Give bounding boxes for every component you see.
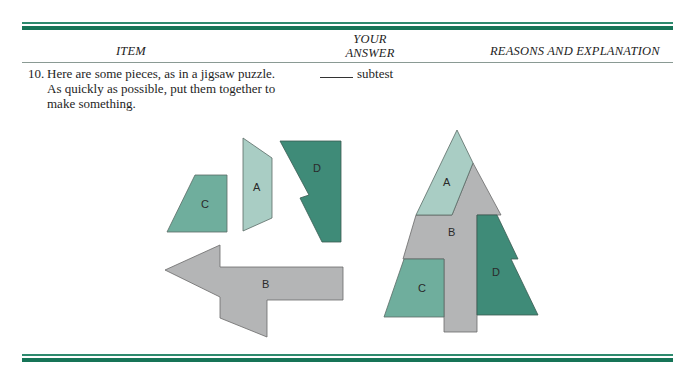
loose-piece-d-label: D [313, 162, 321, 174]
tree-piece-a-label: A [443, 176, 451, 188]
puzzle-figure: C A D B B A C D [0, 0, 697, 366]
loose-piece-b [165, 245, 343, 337]
loose-piece-c-label: C [201, 198, 209, 210]
loose-piece-b-label: B [262, 278, 269, 290]
loose-piece-a-label: A [253, 181, 261, 193]
loose-pieces: C A D B [165, 138, 343, 337]
loose-piece-c [167, 175, 227, 232]
loose-piece-d [280, 141, 341, 242]
tree-piece-c [384, 259, 444, 317]
bottom-rule-thick [22, 358, 673, 362]
tree-piece-b-label: B [448, 226, 455, 238]
bottom-rule-thin [22, 354, 673, 356]
tree-piece-d [477, 215, 538, 315]
assembled-tree: B A C D [384, 130, 538, 332]
tree-piece-d-label: D [492, 266, 500, 278]
tree-piece-c-label: C [418, 282, 426, 294]
